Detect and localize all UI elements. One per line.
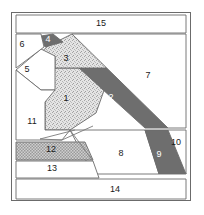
region-5-label: 5 <box>24 64 29 74</box>
diagram-canvas: 123456789101112131415 <box>0 0 204 215</box>
region-11-label: 11 <box>27 116 36 126</box>
region-2-label: 2 <box>108 92 113 102</box>
region-15-label: 15 <box>96 18 106 28</box>
region-4-label: 4 <box>45 34 50 44</box>
region-13-label: 13 <box>47 163 57 173</box>
region-14-label: 14 <box>110 184 120 194</box>
region-8-label: 8 <box>118 148 123 158</box>
region-6-label: 6 <box>19 39 24 49</box>
partition-diagram: 123456789101112131415 <box>0 0 204 215</box>
region-3-label: 3 <box>63 53 68 63</box>
region-7-label: 7 <box>145 70 150 80</box>
region-13 <box>16 161 99 178</box>
region-10-label: 10 <box>171 137 181 147</box>
region-12-label: 12 <box>46 144 56 154</box>
region-1-label: 1 <box>63 93 68 103</box>
region-9-label: 9 <box>156 149 161 159</box>
region-14 <box>16 179 186 199</box>
